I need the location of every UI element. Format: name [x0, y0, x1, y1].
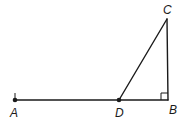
point-a-dot: [13, 98, 18, 103]
label-c: C: [163, 3, 172, 17]
segment-dc: [119, 19, 167, 100]
geometry-diagram: A D B C: [0, 0, 184, 124]
label-b: B: [169, 103, 177, 117]
segment-cb: [167, 19, 168, 100]
label-d: D: [115, 106, 124, 120]
point-d-dot: [117, 98, 122, 103]
right-angle-marker: [161, 93, 168, 100]
label-a: A: [9, 106, 18, 120]
